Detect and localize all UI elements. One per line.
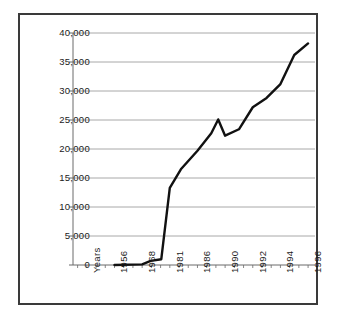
x-axis-tick-labels: Years19561968198119861990199219941996: [20, 15, 320, 307]
x-tick-label: 1968: [146, 251, 157, 273]
x-tick-label: 1994: [284, 251, 295, 273]
chart-frame: 05,00010,00015,00020,00025,00030,00035,0…: [18, 13, 318, 305]
x-tick-label: Years: [91, 248, 102, 273]
x-tick-label: 1981: [174, 251, 185, 273]
x-tick-label: 1990: [229, 251, 240, 273]
x-tick-label: 1996: [312, 251, 323, 273]
figure-canvas: 05,00010,00015,00020,00025,00030,00035,0…: [0, 0, 341, 320]
x-tick-label: 1986: [201, 251, 212, 273]
x-tick-label: 1992: [257, 251, 268, 273]
x-tick-label: 1956: [118, 251, 129, 273]
